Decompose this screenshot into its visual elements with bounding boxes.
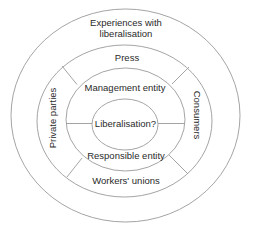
outer-ring-label-line1: Experiences with: [90, 17, 162, 28]
outer-ring-label-line2: liberalisation: [100, 28, 153, 39]
concentric-rings-diagram: Experiences with liberalisation Press Wo…: [0, 0, 253, 232]
middle-ring-label-bottom: Workers' unions: [92, 175, 160, 186]
divider-lower-left: [67, 158, 82, 177]
inner-ring-label-top: Management entity: [85, 82, 166, 93]
outer-ring: [11, 9, 240, 222]
inner-ring-label-bottom: Responsible entity: [87, 150, 165, 161]
divider-upper-left: [62, 66, 77, 85]
middle-ring-label-right: Consumers: [192, 91, 203, 140]
middle-ring-label-left: Private parties: [47, 87, 58, 148]
middle-ring-label-top: Press: [115, 52, 140, 63]
divider-upper-right: [172, 67, 189, 84]
core-label: Liberalisation?: [95, 118, 156, 129]
divider-lower-right: [169, 155, 188, 174]
